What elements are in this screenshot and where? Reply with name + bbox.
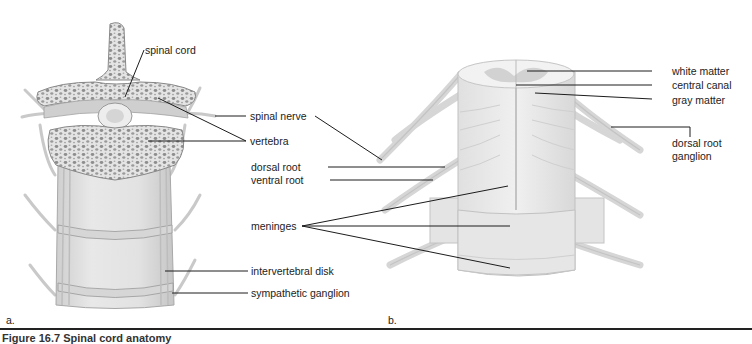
label-central-canal: central canal <box>672 79 732 91</box>
panel-a-illustration <box>22 23 215 309</box>
label-spinal-cord: spinal cord <box>145 44 196 56</box>
label-spinal-nerve: spinal nerve <box>250 110 307 122</box>
label-vertebra: vertebra <box>250 135 289 147</box>
label-dorsal-root: dorsal root <box>251 161 301 173</box>
label-dorsal-root-ganglion-line1: dorsal root <box>672 137 722 149</box>
panel-letter-a: a. <box>6 314 15 326</box>
label-dorsal-root-ganglion-line2: ganglion <box>672 150 712 162</box>
label-white-matter: white matter <box>672 65 729 77</box>
panel-letter-b: b. <box>388 314 397 326</box>
figure-caption: Figure 16.7 Spinal cord anatomy <box>2 332 171 344</box>
label-meninges: meninges <box>251 220 297 232</box>
caption-divider <box>0 328 752 330</box>
label-ventral-root: ventral root <box>251 174 304 186</box>
label-gray-matter: gray matter <box>672 94 725 106</box>
label-intervertebral-disk: intervertebral disk <box>251 265 334 277</box>
label-sympathetic-ganglion: sympathetic ganglion <box>251 287 350 299</box>
panel-b-illustration <box>380 60 640 276</box>
